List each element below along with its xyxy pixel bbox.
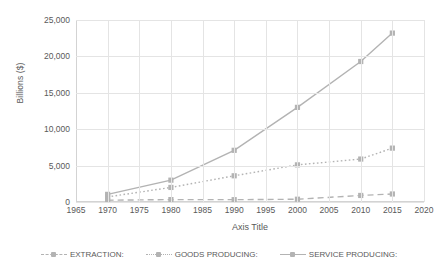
y-tick-label: 20,000 [22,51,70,61]
x-tick-label: 2005 [320,205,339,215]
x-tick-label: 2020 [415,205,434,215]
legend-swatch-icon [280,250,306,259]
gridline-horizontal [76,166,424,167]
line-chart: Billions ($) 05,00010,00015,00020,00025,… [0,0,438,277]
gridline-horizontal [76,56,424,57]
plot-area [76,20,424,202]
x-tick-label: 1975 [130,205,149,215]
legend-label: EXTRACTION: [70,250,124,259]
x-tick-label: 1970 [98,205,117,215]
y-tick-label: 15,000 [22,88,70,98]
gridline-vertical [266,20,267,202]
gridline-vertical [361,20,362,202]
y-tick-label: 5,000 [22,161,70,171]
x-axis-tick-labels: 1965197019751980198519901995200020052010… [76,205,424,219]
gridline-vertical [108,20,109,202]
y-tick-label: 25,000 [22,15,70,25]
x-tick-label: 1990 [225,205,244,215]
series-container [76,20,424,202]
legend-marker-icon [51,252,56,257]
x-axis-title: Axis Title [76,222,424,232]
gridline-vertical [392,20,393,202]
x-tick-label: 2015 [383,205,402,215]
x-tick-label: 2010 [351,205,370,215]
legend-marker-icon [156,252,161,257]
legend-label: GOODS PRODUCING: [175,250,258,259]
x-tick-label: 1985 [193,205,212,215]
gridline-vertical [234,20,235,202]
legend-swatch-icon [41,250,67,259]
x-tick-label: 1965 [67,205,86,215]
x-tick-label: 2000 [288,205,307,215]
series-line [108,194,393,200]
gridline-horizontal [76,202,424,203]
gridline-horizontal [76,129,424,130]
series-goods-producing [105,146,395,200]
gridline-vertical [139,20,140,202]
legend-item[interactable]: SERVICE PRODUCING: [280,250,397,259]
gridline-vertical [424,20,425,202]
gridline-horizontal [76,20,424,21]
gridline-vertical [203,20,204,202]
legend-swatch-icon [146,250,172,259]
gridline-horizontal [76,93,424,94]
legend-item[interactable]: EXTRACTION: [41,250,124,259]
y-axis-tick-labels: 05,00010,00015,00020,00025,000 [22,0,70,277]
chart-legend: EXTRACTION:GOODS PRODUCING:SERVICE PRODU… [0,250,438,259]
x-tick-label: 1980 [161,205,180,215]
y-tick-label: 0 [22,197,70,207]
gridline-vertical [329,20,330,202]
gridline-vertical [171,20,172,202]
gridline-vertical [297,20,298,202]
y-tick-label: 10,000 [22,124,70,134]
legend-item[interactable]: GOODS PRODUCING: [146,250,258,259]
x-tick-label: 1995 [256,205,275,215]
series-line [108,148,393,197]
legend-label: SERVICE PRODUCING: [309,250,397,259]
legend-marker-icon [290,252,295,257]
